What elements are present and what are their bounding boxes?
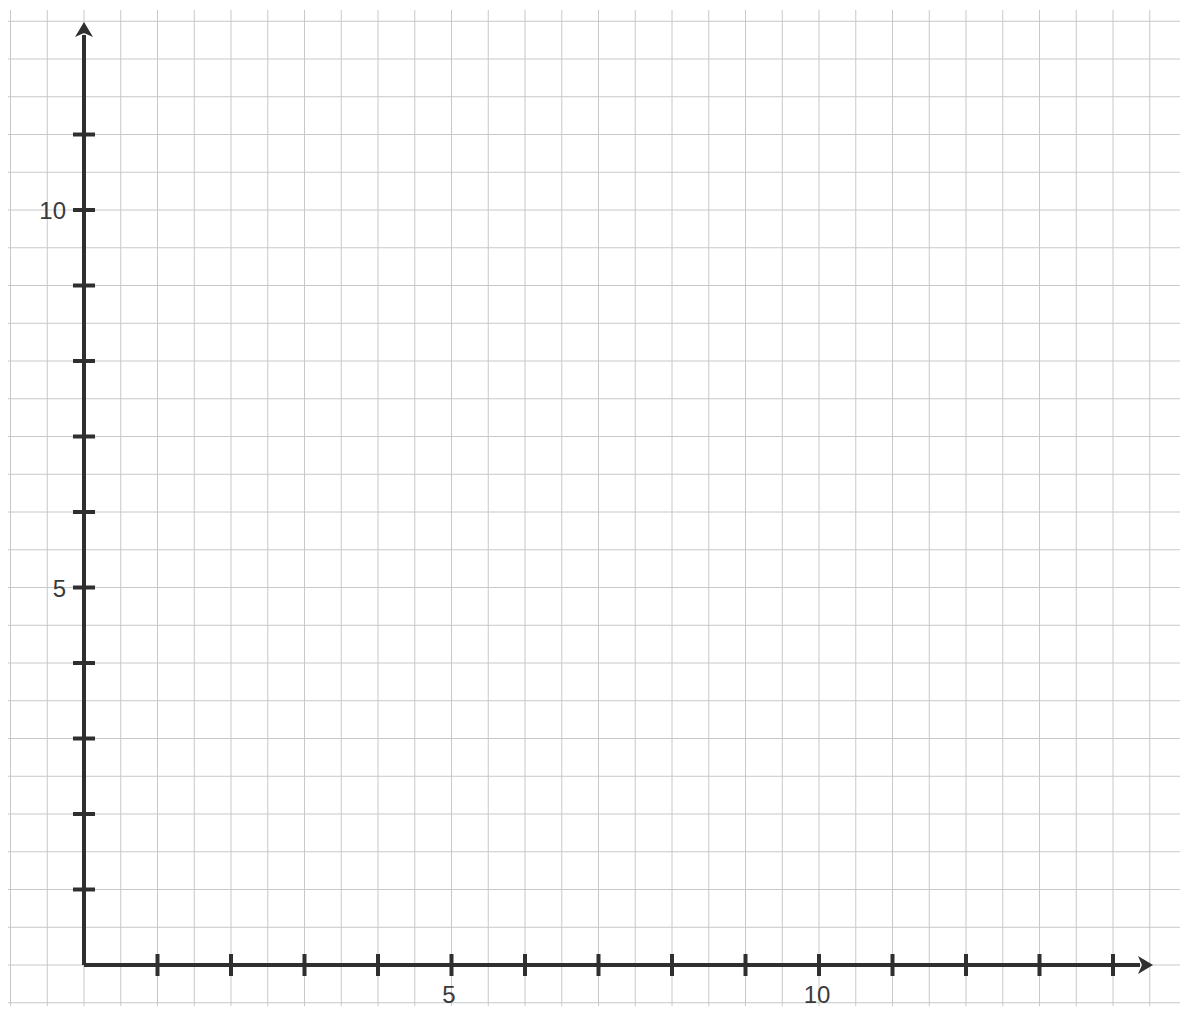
coordinate-plane: 5 10 5 10 [0, 0, 1195, 1018]
y-tick-label-5: 5 [53, 575, 66, 602]
x-tick-label-10: 10 [804, 981, 831, 1008]
axes [75, 22, 1153, 974]
x-tick-label-5: 5 [442, 981, 455, 1008]
grid-lines [8, 10, 1180, 1006]
y-tick-label-10: 10 [39, 197, 66, 224]
tick-marks [73, 135, 1113, 977]
